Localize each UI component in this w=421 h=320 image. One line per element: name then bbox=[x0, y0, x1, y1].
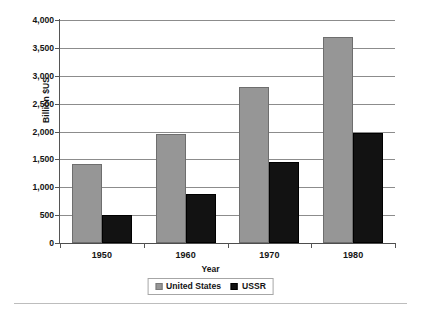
x-axis-tick-mark bbox=[395, 243, 396, 248]
x-axis-title: Year bbox=[0, 264, 421, 274]
x-axis-tick-label: 1950 bbox=[67, 250, 137, 260]
x-axis-tick-mark bbox=[144, 243, 145, 248]
y-axis-tick-mark bbox=[55, 187, 60, 188]
bar[interactable] bbox=[186, 194, 216, 243]
bar-group bbox=[239, 20, 299, 243]
y-axis-tick-label: 1,000 bbox=[18, 183, 54, 192]
bar[interactable] bbox=[72, 164, 102, 243]
y-axis-tick-label: 0 bbox=[18, 239, 54, 248]
legend-entry-ussr[interactable]: USSR bbox=[231, 281, 266, 291]
x-axis-tick-mark bbox=[60, 243, 61, 248]
y-axis-tick-label: 2,000 bbox=[18, 128, 54, 137]
page-separator-rule bbox=[14, 303, 407, 304]
y-axis-tick-label: 3,500 bbox=[18, 44, 54, 53]
bar[interactable] bbox=[269, 162, 299, 243]
y-axis-tick-mark bbox=[55, 20, 60, 21]
legend-entry-united-states[interactable]: United States bbox=[155, 281, 221, 291]
x-axis-tick-label: 1970 bbox=[234, 250, 304, 260]
legend-label-ussr: USSR bbox=[242, 281, 266, 291]
y-axis-tick-label: 500 bbox=[18, 211, 54, 220]
bar[interactable] bbox=[102, 215, 132, 243]
y-axis-tick-label: 4,000 bbox=[18, 16, 54, 25]
bar-group bbox=[156, 20, 216, 243]
x-axis-tick-label: 1980 bbox=[318, 250, 388, 260]
y-axis-tick-mark bbox=[55, 76, 60, 77]
legend-label-united-states: United States bbox=[166, 281, 221, 291]
bar[interactable] bbox=[323, 37, 353, 243]
bar[interactable] bbox=[353, 133, 383, 243]
bar-group bbox=[72, 20, 132, 243]
x-axis-tick-mark bbox=[311, 243, 312, 248]
y-axis-tick-label: 1,500 bbox=[18, 155, 54, 164]
x-axis-tick-label: 1960 bbox=[151, 250, 221, 260]
y-axis-tick-labels: 4,0003,5003,0002,5002,0001,5001,0005000 bbox=[18, 14, 54, 249]
bar[interactable] bbox=[156, 134, 186, 243]
y-axis-tick-mark bbox=[55, 48, 60, 49]
bar-chart-figure: Billion $US 4,0003,5003,0002,5002,0001,5… bbox=[0, 0, 421, 320]
y-axis-tick-mark bbox=[55, 132, 60, 133]
bars-layer bbox=[60, 20, 395, 243]
black-square-swatch-icon bbox=[231, 283, 238, 290]
y-axis-tick-mark bbox=[55, 159, 60, 160]
gray-square-swatch-icon bbox=[155, 283, 162, 290]
chart-legend: United States USSR bbox=[147, 278, 274, 295]
x-axis-tick-mark bbox=[228, 243, 229, 248]
y-axis-tick-label: 2,500 bbox=[18, 100, 54, 109]
y-axis-tick-mark bbox=[55, 215, 60, 216]
bar-group bbox=[323, 20, 383, 243]
y-axis-tick-label: 3,000 bbox=[18, 72, 54, 81]
plot-area bbox=[60, 20, 395, 243]
bar[interactable] bbox=[239, 87, 269, 243]
y-axis-tick-mark bbox=[55, 104, 60, 105]
